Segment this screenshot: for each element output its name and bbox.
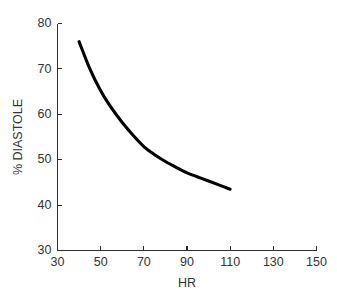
- x-axis-tick-labels: 30507090110130150: [51, 255, 327, 269]
- x-axis-tick-label: 130: [263, 255, 284, 269]
- x-axis-title: HR: [178, 276, 196, 290]
- y-axis-tick-labels: 304050607080: [38, 16, 52, 257]
- axes-group: [58, 24, 317, 251]
- y-axis-tick-label: 80: [38, 16, 52, 30]
- y-axis-tick-label: 60: [38, 107, 52, 121]
- x-axis-tick-label: 30: [51, 255, 65, 269]
- y-axis-title: % DIASTOLE: [11, 99, 25, 175]
- x-axis-tick-label: 90: [180, 255, 194, 269]
- data-curve: [79, 42, 230, 190]
- x-axis-tick-label: 110: [220, 255, 240, 269]
- x-axis-tick-label: 70: [137, 255, 151, 269]
- chart-canvas: 304050607080 30507090110130150 HR % DIAS…: [0, 0, 337, 300]
- data-series-group: [79, 42, 230, 190]
- y-axis-tick-label: 50: [38, 152, 52, 166]
- y-axis-tick-label: 40: [38, 198, 52, 212]
- x-axis-tick-label: 50: [94, 255, 108, 269]
- y-axis-ticks: [58, 24, 63, 251]
- y-axis-tick-label: 70: [38, 62, 52, 76]
- y-axis-tick-label: 30: [38, 243, 52, 257]
- x-axis-tick-label: 150: [306, 255, 327, 269]
- chart-figure: 304050607080 30507090110130150 HR % DIAS…: [0, 0, 337, 300]
- x-axis-ticks: [58, 246, 317, 251]
